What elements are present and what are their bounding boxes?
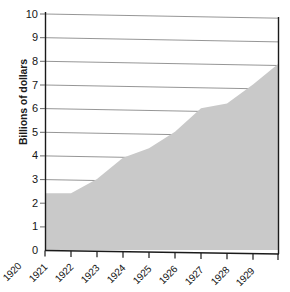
area-chart: Billions of dollars — [0, 0, 290, 292]
x-tick-label: 1921 — [27, 262, 49, 284]
x-tick-label: 1928 — [209, 265, 231, 287]
x-tick-label: 1923 — [79, 263, 101, 285]
x-tick-labels: 1920 1921 1922 1923 1924 1925 1926 1927 … — [0, 0, 290, 292]
x-tick-label: 1924 — [105, 263, 127, 285]
x-tick-label: 1929 — [234, 266, 256, 288]
x-tick-label: 1926 — [157, 264, 179, 286]
x-tick-label: 1922 — [53, 262, 75, 284]
x-tick-label: 1927 — [183, 265, 205, 287]
x-tick-label: 1925 — [131, 264, 153, 286]
x-tick-label: 1920 — [1, 261, 23, 283]
